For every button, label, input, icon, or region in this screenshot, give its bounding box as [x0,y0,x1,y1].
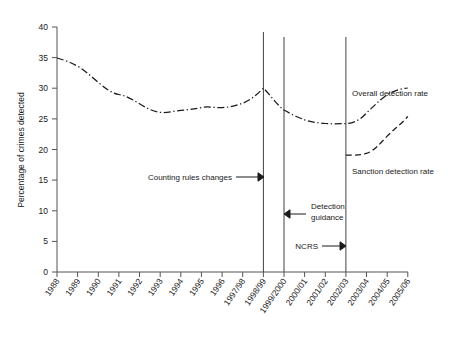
annotation-label-line2: guidance [311,213,344,222]
chart-svg: 0 5 10 15 20 25 30 35 40 Percentage of c… [0,0,454,339]
detection-rate-chart: 0 5 10 15 20 25 30 35 40 Percentage of c… [0,0,454,339]
ytick-label: 20 [39,145,49,155]
ytick-label: 0 [43,267,48,277]
xtick-label: 1990 [84,276,103,297]
ytick-label: 10 [39,206,49,216]
xtick-label: 1992 [125,276,144,297]
annotation-counting-rules: Counting rules changes [148,173,264,182]
y-axis-tick-labels: 0 5 10 15 20 25 30 35 40 [39,22,49,277]
annotation-detection-guidance: Detection guidance [284,202,345,222]
series-label-overall: Overall detection rate [352,89,429,98]
annotation-label: Counting rules changes [148,173,232,182]
xtick-label: 1991 [104,276,123,297]
annotation-ncrs: NCRS [295,242,346,251]
ytick-label: 30 [39,83,49,93]
series-line-sanction [346,116,408,155]
annotation-label-line1: Detection [311,202,345,211]
ytick-label: 25 [39,114,49,124]
x-axis-ticks [57,272,408,277]
y-axis-title: Percentage of crimes detected [16,92,26,208]
xtick-label: 1988 [43,276,62,297]
ytick-label: 35 [39,53,49,63]
ytick-label: 40 [39,22,49,32]
ytick-label: 15 [39,175,49,185]
annotation-label: NCRS [295,242,318,251]
xtick-label: 1996 [208,276,227,297]
xtick-label: 2005/06 [387,276,413,307]
ytick-label: 5 [43,236,48,246]
x-axis-tick-labels: 1988 1989 1990 1991 1992 1993 1994 1995 … [43,276,413,315]
series-label-sanction: Sanction detection rate [352,167,434,176]
xtick-label: 1993 [146,276,165,297]
xtick-label: 1995 [187,276,206,297]
xtick-label: 1989 [63,276,82,297]
y-axis-ticks [52,27,57,272]
xtick-label: 1994 [166,276,185,297]
